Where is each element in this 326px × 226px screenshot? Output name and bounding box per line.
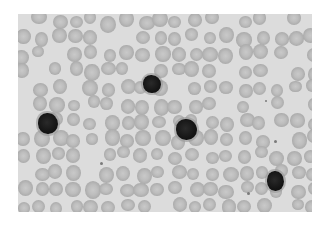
red-blood-cell: [253, 82, 266, 95]
red-blood-cell: [150, 183, 163, 197]
red-blood-cell: [307, 129, 312, 143]
red-blood-cell: [306, 168, 312, 181]
red-blood-cell: [253, 14, 267, 25]
red-blood-cell: [99, 183, 113, 195]
red-blood-cell: [100, 97, 113, 110]
white-blood-cell: [143, 75, 161, 93]
red-blood-cell: [82, 80, 98, 96]
red-blood-cell: [121, 199, 135, 212]
red-blood-cell: [134, 114, 149, 130]
red-blood-cell: [83, 118, 96, 130]
red-blood-cell: [239, 16, 252, 28]
red-blood-cell: [155, 130, 171, 146]
red-blood-cell: [101, 62, 115, 75]
red-blood-cell: [202, 47, 218, 62]
red-blood-cell: [219, 150, 232, 162]
red-blood-cell: [220, 117, 234, 132]
red-blood-cell: [50, 202, 62, 212]
red-blood-cell: [49, 182, 63, 196]
red-blood-cell: [104, 148, 117, 161]
red-blood-cell: [189, 201, 201, 212]
red-blood-cell: [206, 168, 219, 180]
red-blood-cell: [271, 96, 284, 109]
white-blood-cell: [176, 119, 197, 140]
red-blood-cell: [204, 129, 219, 145]
red-blood-cell: [184, 61, 199, 77]
red-blood-cell: [70, 61, 83, 76]
red-blood-cell: [253, 44, 268, 59]
red-blood-cell: [173, 197, 187, 212]
red-blood-cell: [49, 97, 65, 112]
red-blood-cell: [257, 198, 272, 212]
red-blood-cell: [135, 48, 150, 62]
red-blood-cell: [119, 14, 134, 27]
red-blood-cell: [304, 150, 312, 163]
red-blood-cell: [18, 180, 33, 196]
red-blood-cell: [206, 152, 219, 164]
platelet: [247, 192, 250, 195]
red-blood-cell: [105, 129, 121, 146]
red-blood-cell: [136, 31, 151, 44]
red-blood-cell: [257, 31, 270, 45]
red-blood-cell: [187, 168, 199, 180]
red-blood-cell: [31, 14, 47, 24]
red-blood-cell: [36, 182, 49, 196]
platelet: [265, 100, 267, 102]
red-blood-cell: [275, 32, 289, 46]
red-blood-cell: [218, 185, 234, 200]
red-blood-cell: [190, 48, 203, 61]
platelet: [274, 140, 277, 143]
red-blood-cell: [88, 95, 101, 108]
red-blood-cell: [152, 14, 168, 27]
red-blood-cell: [292, 199, 304, 210]
red-blood-cell: [188, 14, 203, 27]
red-blood-cell: [185, 148, 199, 161]
red-blood-cell: [99, 167, 114, 183]
red-blood-cell: [189, 100, 203, 115]
red-blood-cell: [121, 99, 135, 114]
red-blood-cell: [239, 131, 252, 145]
red-blood-cell: [67, 113, 79, 126]
red-blood-cell: [152, 116, 166, 129]
red-blood-cell: [308, 182, 312, 195]
red-blood-cell: [71, 200, 84, 212]
red-blood-cell: [36, 148, 51, 164]
red-blood-cell: [219, 27, 234, 43]
red-blood-cell: [291, 67, 306, 82]
red-blood-cell: [188, 82, 202, 95]
red-blood-cell: [18, 29, 31, 44]
red-blood-cell: [305, 200, 312, 212]
red-blood-cell: [203, 182, 217, 196]
red-blood-cell: [68, 100, 80, 111]
platelet: [100, 162, 103, 165]
red-blood-cell: [291, 185, 306, 200]
red-blood-cell: [255, 146, 268, 158]
red-blood-cell: [84, 14, 96, 24]
red-blood-cell: [135, 130, 151, 147]
red-blood-cell: [306, 79, 312, 92]
red-blood-cell: [168, 16, 181, 28]
red-blood-cell: [204, 32, 216, 45]
red-blood-cell: [33, 96, 48, 111]
red-blood-cell: [66, 148, 80, 162]
red-blood-cell: [68, 29, 83, 44]
red-blood-cell: [32, 200, 45, 212]
red-blood-cell: [18, 202, 30, 212]
red-blood-cell: [133, 183, 148, 197]
red-blood-cell: [151, 166, 164, 178]
red-blood-cell: [100, 16, 116, 33]
red-blood-cell: [290, 113, 306, 127]
red-blood-cell: [223, 167, 239, 182]
red-blood-cell: [168, 32, 181, 47]
red-blood-cell: [66, 134, 80, 148]
red-blood-cell: [307, 48, 312, 61]
red-blood-cell: [35, 32, 49, 47]
red-blood-cell: [287, 14, 301, 25]
red-blood-cell: [292, 166, 306, 179]
red-blood-cell: [202, 64, 216, 78]
red-blood-cell: [218, 48, 233, 64]
red-blood-cell: [168, 181, 182, 195]
red-blood-cell: [303, 28, 312, 43]
red-blood-cell: [116, 166, 130, 181]
red-blood-cell: [239, 44, 253, 59]
